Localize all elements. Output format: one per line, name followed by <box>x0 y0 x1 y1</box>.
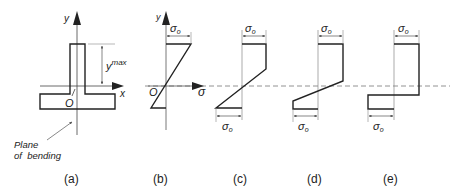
origin-label: O <box>65 97 74 109</box>
sigma0-top-label: σo <box>170 22 181 35</box>
sigma0-bottom-label: σo <box>298 120 309 133</box>
x-axis-label: x <box>119 88 126 99</box>
caption-b: (b) <box>153 172 168 186</box>
stress-profile <box>216 44 266 108</box>
ymax-label: ymax <box>105 58 128 72</box>
sigma-axis-label: σ <box>198 85 206 99</box>
sigma0-bottom-label: σo <box>222 120 233 133</box>
stress-profile <box>368 44 419 109</box>
caption-a: (a) <box>64 172 79 186</box>
stress-profile <box>151 44 191 108</box>
y-axis-label: y <box>63 13 70 24</box>
y-axis-arrowhead-icon <box>162 11 170 25</box>
panel-e-fully-plastic: σo σo (e) <box>368 22 419 186</box>
sigma0-top-label: σo <box>321 22 332 35</box>
centroid-pointer <box>72 89 75 96</box>
sigma0-top-label: σo <box>245 22 256 35</box>
caption-d: (d) <box>307 172 322 186</box>
y-axis-arrowhead-icon <box>73 11 81 25</box>
t-section-outline <box>40 44 115 109</box>
panel-a-cross-section: y x O ymax Plane of bending (a) <box>14 11 128 186</box>
stress-distribution-diagram: y x O ymax Plane of bending (a) y σ O σo… <box>0 0 455 190</box>
plane-of-bending-leader <box>47 122 72 140</box>
caption-e: (e) <box>383 172 398 186</box>
sigma0-top-label: σo <box>398 22 409 35</box>
panel-c-partially-plastic: σo σo (c) <box>216 22 266 186</box>
plane-of-bending-label-line2: of bending <box>14 150 62 161</box>
plane-of-bending-label-line1: Plane <box>14 139 38 150</box>
panel-b-linear-elastic: y σ O σo (b) <box>148 11 206 186</box>
sigma0-bottom-label: σo <box>373 120 384 133</box>
caption-c: (c) <box>233 172 247 186</box>
panel-d-partially-plastic: σo σo (d) <box>293 22 343 186</box>
y-axis-label: y <box>155 12 161 22</box>
origin-label: O <box>149 86 158 98</box>
